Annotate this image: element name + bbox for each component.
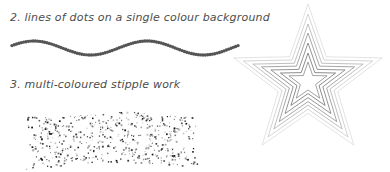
stipple-dot <box>130 142 131 143</box>
stipple-dot <box>152 143 153 144</box>
stipple-dot <box>184 152 185 153</box>
stipple-dot <box>54 124 56 126</box>
stipple-dot <box>121 124 123 126</box>
stipple-dot <box>70 145 72 147</box>
stipple-dot <box>90 149 92 151</box>
stipple-dot <box>99 135 100 136</box>
stipple-dot <box>186 131 187 132</box>
stipple-dot <box>62 126 63 127</box>
stipple-dot <box>41 138 43 140</box>
stipple-dot <box>118 134 119 135</box>
stipple-dot <box>155 138 156 139</box>
stipple-dot <box>55 126 57 128</box>
stipple-dot <box>115 125 116 126</box>
stipple-dot <box>28 127 29 128</box>
stipple-dot <box>167 140 168 141</box>
stipple-dot <box>102 127 103 128</box>
stipple-dot <box>192 139 193 140</box>
stipple-dot <box>34 117 36 119</box>
stipple-dot <box>116 160 118 162</box>
stipple-dot <box>60 153 62 155</box>
stipple-dot <box>178 155 180 157</box>
stipple-dot <box>172 149 173 150</box>
stipple-dot <box>122 113 123 114</box>
stipple-dot <box>149 126 151 128</box>
stipple-dot <box>58 132 60 134</box>
stipple-dot <box>179 158 180 159</box>
stipple-dot <box>41 132 42 133</box>
stipple-dot <box>107 153 108 154</box>
stipple-dot <box>102 146 104 148</box>
stipple-dot <box>182 120 183 121</box>
stipple-dot <box>135 114 137 116</box>
stipple-dot <box>127 136 128 137</box>
stipple-dot <box>176 128 177 129</box>
stipple-dot <box>149 163 150 164</box>
stipple-dot <box>136 117 137 118</box>
stipple-dot <box>92 140 93 141</box>
stipple-dot <box>47 135 48 136</box>
stipple-dot <box>189 138 191 140</box>
stipple-dot <box>43 123 44 124</box>
stipple-dot <box>93 151 94 152</box>
stipple-dot <box>39 120 41 122</box>
stipple-dot <box>74 149 76 151</box>
stipple-dot <box>66 126 68 128</box>
stipple-dot <box>184 117 186 119</box>
stipple-dot <box>125 147 127 149</box>
stipple-dot <box>76 155 78 157</box>
stipple-dot <box>188 124 190 126</box>
stipple-dot <box>150 146 151 147</box>
stipple-dot <box>92 123 93 124</box>
stipple-dot <box>112 138 113 139</box>
stipple-dot <box>170 155 171 156</box>
stipple-dot <box>63 126 64 127</box>
stipple-dot <box>127 160 129 162</box>
stipple-dot <box>59 131 60 132</box>
stipple-dot <box>88 153 89 154</box>
stipple-dot <box>57 147 58 148</box>
stipple-dot <box>35 146 36 147</box>
stipple-dot <box>152 163 153 164</box>
stipple-dot <box>56 152 57 153</box>
stipple-dot <box>45 121 46 122</box>
stipple-dot <box>69 144 70 145</box>
stipple-dot <box>61 143 62 144</box>
stipple-dot <box>87 115 88 116</box>
stipple-dot <box>87 136 88 137</box>
stipple-dot <box>121 153 123 155</box>
stipple-dot <box>90 133 91 134</box>
stipple-dot <box>146 134 148 136</box>
stipple-dot <box>195 126 196 127</box>
stipple-dot <box>86 142 87 143</box>
stipple-dot <box>72 126 73 127</box>
stipple-dot <box>99 123 100 124</box>
stipple-dot <box>67 148 68 149</box>
stipple-dot <box>70 116 71 117</box>
stipple-dot <box>49 146 50 147</box>
stipple-dot <box>102 134 104 136</box>
stipple-dot <box>94 124 95 125</box>
stipple-dot <box>133 135 134 136</box>
stipple-dot <box>63 148 64 149</box>
stipple-dot <box>128 148 130 150</box>
stipple-dot <box>64 158 65 159</box>
stipple-dot <box>64 163 66 165</box>
stipple-dot <box>124 135 125 136</box>
stipple-dot <box>126 118 127 119</box>
stipple-dot <box>36 156 37 157</box>
stipple-dot <box>71 131 72 132</box>
stipple-dot <box>161 162 162 163</box>
stipple-dot <box>180 119 182 121</box>
stipple-dot <box>162 144 164 146</box>
stipple-dot <box>56 156 57 157</box>
stipple-dot <box>51 127 52 128</box>
stipple-dot <box>42 143 44 145</box>
stipple-dot <box>166 156 167 157</box>
stipple-dot <box>131 123 133 125</box>
stipple-dot <box>59 166 60 167</box>
stipple-dot <box>132 139 134 141</box>
stipple-dot <box>147 127 149 129</box>
stipple-dot <box>141 162 143 164</box>
stipple-dot <box>162 118 164 120</box>
